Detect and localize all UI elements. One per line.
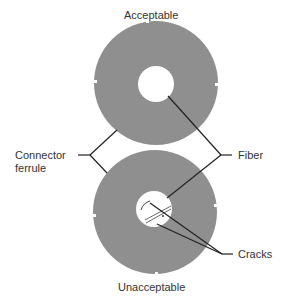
acceptable-ferrule <box>94 21 218 145</box>
unacceptable-label: Unacceptable <box>118 281 185 294</box>
connector-ferrule-label: Connector ferrule <box>15 149 66 175</box>
cracks-label: Cracks <box>238 248 272 261</box>
connector-ferrule-leaders <box>78 130 117 173</box>
connector-label-line1: Connector <box>15 149 66 162</box>
unacceptable-ferrule <box>93 150 217 275</box>
fiber-label: Fiber <box>238 149 263 162</box>
connector-label-line2: ferrule <box>15 162 66 175</box>
